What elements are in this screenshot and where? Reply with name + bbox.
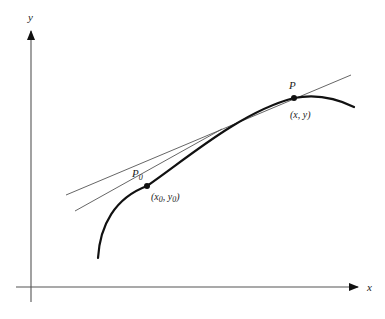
secant-line — [66, 75, 351, 195]
p0-coordinates-label: (x0, y0) — [151, 191, 180, 204]
tangent-line — [75, 129, 222, 211]
y-axis-label: y — [27, 11, 33, 23]
p0-label: P0 — [131, 167, 143, 182]
p-coordinates-label: (x, y) — [290, 109, 311, 121]
point-p — [291, 95, 297, 101]
point-p0 — [144, 183, 150, 189]
p-label: P — [288, 79, 296, 91]
x-axis-label: x — [366, 281, 372, 293]
diagram-canvas: y x P0 (x0, y0) P (x, y) — [0, 0, 385, 319]
